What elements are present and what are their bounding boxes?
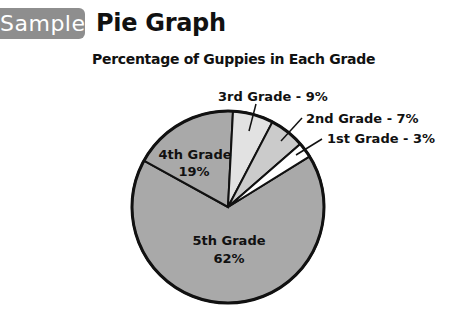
label-4th-grade-name: 4th Grade xyxy=(158,147,231,162)
label-5th-grade-pct: 62% xyxy=(213,251,244,266)
label-2nd-grade: 2nd Grade - 7% xyxy=(306,111,419,126)
pie-chart: 3rd Grade - 9% 2nd Grade - 7% 1st Grade … xyxy=(0,0,450,319)
label-3rd-grade: 3rd Grade - 9% xyxy=(218,89,328,104)
label-5th-grade-name: 5th Grade xyxy=(192,233,265,248)
label-4th-grade-pct: 19% xyxy=(178,164,209,179)
label-1st-grade: 1st Grade - 3% xyxy=(327,131,435,146)
